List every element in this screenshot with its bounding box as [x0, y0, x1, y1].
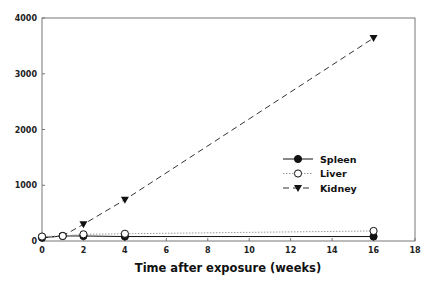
- legend-label-liver: Liver: [320, 168, 347, 179]
- x-tick-label: 8: [205, 246, 211, 255]
- legend-label-kidney: Kidney: [320, 183, 358, 194]
- legend: SpleenLiverKidney: [283, 154, 358, 194]
- x-tick-label: 18: [409, 246, 421, 255]
- y-tick-label: 0: [31, 237, 37, 246]
- line-chart: 01000200030004000 024681012141618 Time a…: [0, 0, 436, 290]
- y-tick-label: 4000: [15, 14, 38, 23]
- y-tick-label: 1000: [15, 181, 38, 190]
- x-tick-label: 14: [327, 246, 339, 255]
- x-tick-label: 2: [81, 246, 87, 255]
- kidney-marker: [370, 35, 378, 42]
- liver-marker: [370, 227, 377, 234]
- x-tick-label: 0: [39, 246, 45, 255]
- legend-liver-marker: [294, 170, 301, 177]
- kidney-marker: [121, 197, 129, 204]
- kidney-marker: [79, 221, 87, 228]
- liver-marker: [80, 231, 87, 238]
- spleen-line: [42, 236, 374, 238]
- kidney-line: [42, 38, 374, 238]
- x-tick-label: 6: [164, 246, 170, 255]
- x-tick-label: 4: [122, 246, 128, 255]
- liver-marker: [38, 233, 45, 240]
- liver-marker: [59, 232, 66, 239]
- y-axis: 01000200030004000: [15, 14, 45, 246]
- plot-frame: [42, 18, 415, 241]
- x-axis-title: Time after exposure (weeks): [135, 261, 321, 275]
- data-series: [38, 35, 378, 242]
- x-tick-label: 12: [285, 246, 296, 255]
- legend-label-spleen: Spleen: [320, 154, 357, 165]
- legend-spleen-marker: [294, 155, 301, 162]
- y-tick-label: 2000: [15, 126, 38, 135]
- x-tick-label: 10: [244, 246, 256, 255]
- x-tick-label: 16: [368, 246, 380, 255]
- liver-marker: [121, 230, 128, 237]
- y-tick-label: 3000: [15, 70, 38, 79]
